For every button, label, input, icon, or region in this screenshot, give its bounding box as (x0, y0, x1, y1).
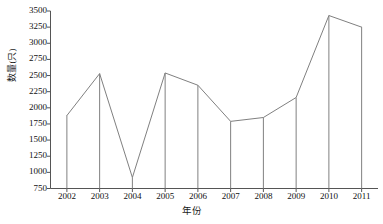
y-axis-ticks (47, 11, 51, 189)
chart-container: 数量(只) 7501000125015001750200022502500275… (0, 0, 383, 224)
data-series-line (67, 16, 362, 178)
data-drop-lines (67, 16, 362, 189)
x-axis-title: 年份 (0, 206, 383, 217)
x-axis-tick-label: 2011 (342, 191, 382, 201)
